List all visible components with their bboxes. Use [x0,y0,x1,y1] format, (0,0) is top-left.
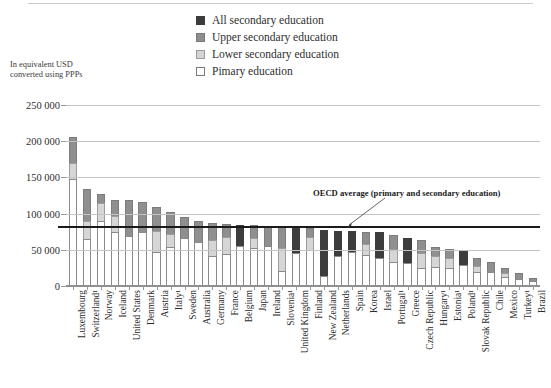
bar-column[interactable] [320,230,328,285]
y-axis-tick-label: 150 000 [26,172,60,183]
bar-segment-upper [125,200,133,235]
bar-segment-primary [375,258,383,285]
bar-segment-primary [264,246,272,285]
bar-segment-upper [97,194,105,203]
bar-column[interactable] [473,258,481,286]
bar-column[interactable] [334,231,342,285]
bar-segment-primary [431,267,439,285]
bar-column[interactable] [83,189,91,285]
x-axis-label: Norway [104,290,114,320]
x-axis-label: Ireland [272,290,282,317]
bar-column[interactable] [194,221,202,285]
bar-column[interactable] [166,212,174,285]
legend-item-upper: Upper secondary education [196,29,339,46]
bar-column[interactable] [389,235,397,285]
bar-segment-primary [111,232,119,285]
bar-column[interactable] [529,278,537,285]
legend-swatch-lower-icon [196,50,205,59]
y-axis-tick-label: 200 000 [26,136,60,147]
x-axis-label: Luxembourg [77,290,87,338]
gridline [66,141,540,142]
bar-segment-primary [125,236,133,285]
bar-segment-all [334,231,342,256]
x-axis-label: Finland [314,290,324,319]
bar-column[interactable] [348,231,356,285]
bar-segment-upper [431,247,439,256]
oecd-arrow-icon [345,197,387,229]
bar-segment-primary [487,272,495,285]
bar-segment-primary [362,255,370,285]
bar-segment-primary [83,239,91,285]
y-axis-tick-label: 100 000 [26,208,60,219]
bar-column[interactable] [208,223,216,285]
bar-column[interactable] [306,228,314,285]
bar-segment-lower [166,234,174,247]
x-axis-label: France [230,290,240,316]
bar-segment-primary [389,262,397,285]
bar-column[interactable] [152,207,160,285]
bar-column[interactable] [69,137,77,285]
bar-segment-upper [264,226,272,246]
bar-segment-primary [69,179,77,285]
x-axis-label: Hungary¹ [439,290,449,326]
bar-segment-upper [417,240,425,253]
bar-segment-upper [389,235,397,249]
legend-label: All secondary education [212,14,324,27]
bar-segment-primary [278,271,286,285]
bar-segment-upper [83,189,91,221]
bar-segment-primary [236,246,244,285]
bar-column[interactable] [97,194,105,285]
legend-label: Upper secondary education [212,31,338,44]
bar-column[interactable] [362,232,370,285]
bar-segment-primary [403,263,411,285]
bar-segment-upper [306,228,314,237]
bar-segment-primary [208,256,216,285]
x-axis-label: New Zealand [328,290,338,340]
legend-item-primary: Pimary education [196,63,339,80]
bar-segment-primary [417,268,425,285]
bar-column[interactable] [250,225,258,285]
x-axis-label: Poland¹ [467,290,477,319]
bar-segment-primary [445,268,453,285]
bar-column[interactable] [487,262,495,285]
bar-column[interactable] [515,273,523,285]
bar-column[interactable] [417,240,425,285]
x-axis-label: Czech Republic [425,290,435,350]
bar-segment-upper [278,227,286,248]
y-axis-tick [61,105,66,106]
bar-segment-lower [445,258,453,268]
bar-segment-primary [459,265,467,285]
bar-segment-primary [194,242,202,285]
legend-swatch-upper-icon [196,33,205,42]
bar-column[interactable] [431,247,439,285]
bar-segment-upper [473,258,481,267]
legend-label: Pimary education [212,65,293,78]
bar-column[interactable] [222,224,230,285]
bar-segment-primary [97,221,105,285]
bar-column[interactable] [459,250,467,285]
bar-segment-all [348,231,356,251]
bar-column[interactable] [278,227,286,285]
bar-column[interactable] [445,249,453,285]
bar-segment-primary [501,277,509,285]
bar-column[interactable] [236,225,244,285]
bar-segment-lower [417,253,425,267]
y-axis-tick [61,250,66,251]
chart-root: All secondary educationUpper secondary e… [0,0,551,388]
y-axis-labels: 050 000100 000150 000200 000250 000 [0,105,60,286]
bar-segment-primary [334,256,342,285]
bar-column[interactable] [264,226,272,285]
bar-segment-all [375,232,383,258]
bar-column[interactable] [292,228,300,285]
x-axis-label: Brazil [537,290,547,313]
bar-column[interactable] [403,238,411,285]
oecd-average-label: OECD average (primary and secondary educ… [313,188,500,198]
x-axis-label: Estonia¹ [453,290,463,321]
bar-segment-primary [473,272,481,285]
bar-segment-primary [138,232,146,285]
bar-column[interactable] [501,268,509,285]
x-axis-label: Slovenia¹ [286,290,296,326]
bar-column[interactable] [375,232,383,285]
bar-segment-lower [278,248,286,270]
x-axis-label: Sweden [188,290,198,320]
